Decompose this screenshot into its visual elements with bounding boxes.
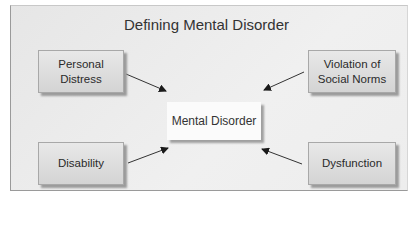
node-label: Violation of Social Norms xyxy=(309,57,395,87)
node-personal-distress: Personal Distress xyxy=(38,50,124,93)
arrow-violation-of-social-norms xyxy=(264,72,304,90)
arrow-dysfunction xyxy=(262,149,302,164)
node-label: Personal Distress xyxy=(39,57,123,87)
node-label: Disability xyxy=(58,156,104,171)
node-label: Dysfunction xyxy=(322,156,382,171)
node-disability: Disability xyxy=(38,142,124,185)
node-dysfunction: Dysfunction xyxy=(308,142,396,185)
arrow-disability xyxy=(128,148,168,163)
node-violation-of-social-norms: Violation of Social Norms xyxy=(308,50,396,93)
center-label: Mental Disorder xyxy=(172,114,257,128)
node-mental-disorder: Mental Disorder xyxy=(167,102,261,140)
arrow-personal-distress xyxy=(126,74,166,91)
